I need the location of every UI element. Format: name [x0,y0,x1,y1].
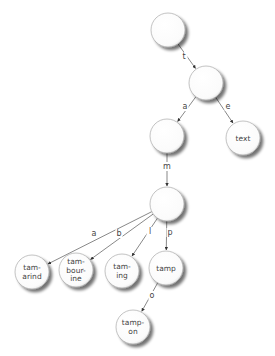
trie-node-tambourine: tam-bour-ine [59,253,93,287]
edge-tam-taming [132,218,157,256]
trie-node-tamarind: tam-arind [15,255,49,289]
edge-label: a [183,102,188,111]
edge-label: a [92,229,97,238]
trie-node-t [189,66,223,100]
trie-node-taming: tam-ing [105,254,139,288]
edge-label: l [149,227,151,236]
node-label: tamp [156,264,176,273]
node-circle [189,66,223,100]
trie-node-te: text [226,121,260,155]
trie-node-tam [150,187,184,221]
node-label: ine [70,274,82,283]
edge-label: t [182,52,185,61]
node-label: text [236,134,251,143]
edge-label: e [226,102,231,111]
trie-node-root [151,13,185,47]
trie-node-tampon: tamp-on [116,310,150,344]
trie-node-ta [150,119,184,153]
edge-label: p [167,228,172,237]
node-layer: texttam-arindtam-bour-inetam-ingtamptamp… [15,13,260,344]
node-circle [150,187,184,221]
edge-label: m [163,162,171,171]
node-circle [151,13,185,47]
edge-label: b [116,229,121,238]
edge-label: o [150,291,155,300]
edge-tam-tamarind [48,212,152,264]
trie-diagram: texttam-arindtam-bour-inetam-ingtamptamp… [0,0,275,356]
node-circle [150,119,184,153]
node-label: ing [116,271,128,280]
node-label: arind [22,272,42,281]
node-label: on [128,327,138,336]
trie-node-tamp: tamp [149,251,183,285]
